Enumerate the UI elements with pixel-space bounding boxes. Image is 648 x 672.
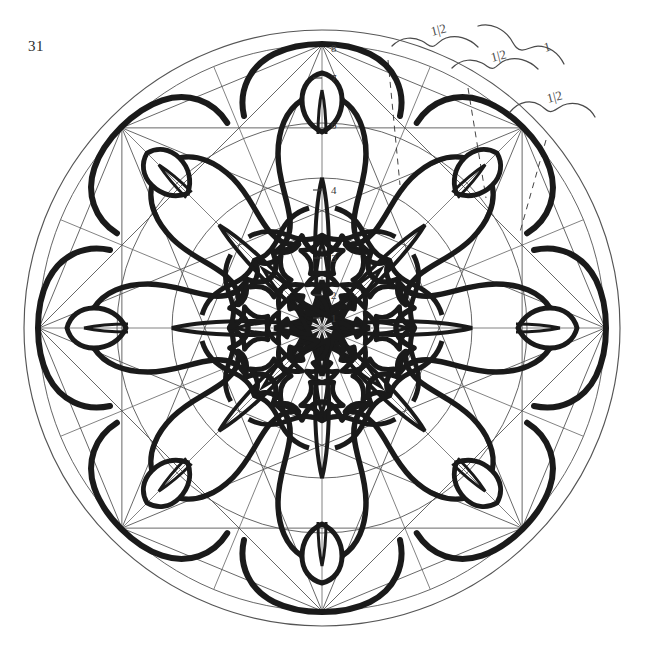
- axis-number-4: 4: [331, 184, 337, 196]
- brace-3-label: 1: [542, 39, 552, 55]
- brace-4-label: 1|2: [545, 88, 564, 106]
- brace-2-label: 1|2: [489, 47, 508, 65]
- axis-number-8: 8: [331, 42, 337, 54]
- axis-number-7: 7: [331, 72, 337, 84]
- rosette-figure: 8764321 1|21|211|2: [0, 0, 648, 672]
- axis-number-3: 3: [331, 252, 337, 264]
- proportion-annotation-labels: 1|21|211|2: [429, 21, 564, 106]
- axis-number-1: 1: [331, 312, 337, 324]
- drawing-sheet: 31: [0, 0, 648, 672]
- brace-1-label: 1|2: [429, 21, 448, 39]
- axis-number-2: 2: [331, 289, 337, 301]
- axis-number-6: 6: [331, 119, 337, 131]
